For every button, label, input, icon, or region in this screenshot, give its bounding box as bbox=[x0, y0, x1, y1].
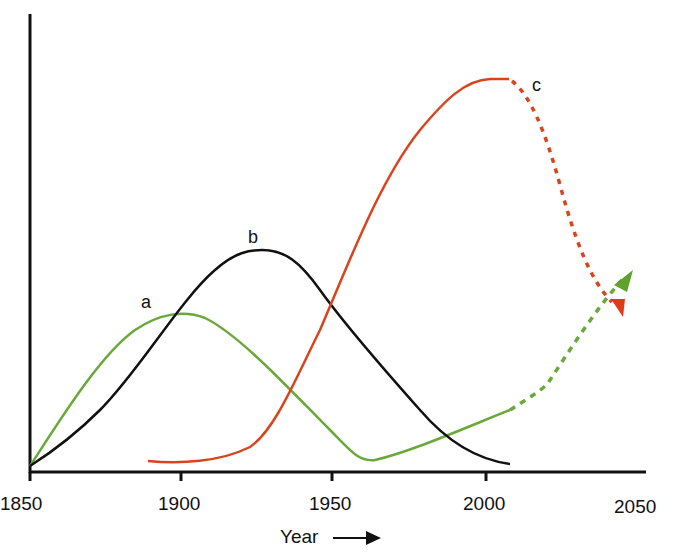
curve-a bbox=[30, 314, 510, 466]
curve-c bbox=[148, 79, 509, 462]
curve-label-a: a bbox=[141, 292, 152, 312]
curve-c-arrowhead-icon bbox=[611, 299, 625, 317]
curve-label-c: c bbox=[532, 75, 541, 95]
curve-c-projection bbox=[512, 81, 612, 302]
x-axis-title: Year bbox=[280, 526, 319, 547]
x-axis-arrow-icon bbox=[333, 531, 381, 545]
tick-label-1900: 1900 bbox=[158, 493, 200, 514]
curve-a-projection bbox=[510, 280, 622, 410]
tick-label-1950: 1950 bbox=[309, 493, 351, 514]
tick-label-2000: 2000 bbox=[463, 493, 505, 514]
tick-label-2050: 2050 bbox=[614, 496, 656, 517]
curve-b bbox=[30, 250, 510, 466]
tick-label-1850: 1850 bbox=[0, 493, 42, 514]
curve-a-arrowhead-icon bbox=[614, 270, 633, 292]
chart: 1850 1900 1950 2000 2050 Year a b c bbox=[0, 0, 675, 559]
curve-label-b: b bbox=[248, 227, 258, 247]
